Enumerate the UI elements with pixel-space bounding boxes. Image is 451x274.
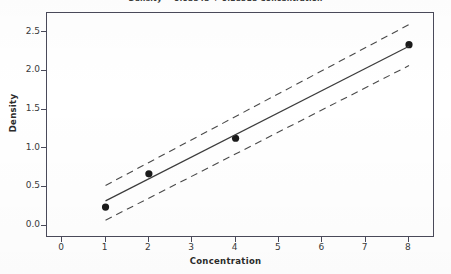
chart-container: Density = 0.03543 + 0.28518 Concentratio… xyxy=(0,0,451,274)
y-tick-label: 2.0 xyxy=(10,65,40,74)
x-tick-label: 6 xyxy=(311,242,331,252)
x-tick-label: 8 xyxy=(398,242,418,252)
y-tick-label: 0.0 xyxy=(10,220,40,229)
series-line xyxy=(106,66,409,221)
data-point xyxy=(145,170,152,177)
x-tick-label: 2 xyxy=(138,242,158,252)
x-tick-label: 1 xyxy=(95,242,115,252)
y-tick-label: 1.5 xyxy=(10,104,40,113)
y-tick-label: 0.5 xyxy=(10,181,40,190)
plot-svg xyxy=(47,13,434,237)
plot-area xyxy=(46,12,434,237)
series-line xyxy=(106,46,409,201)
x-tick-label: 0 xyxy=(51,242,71,252)
x-axis-label: Concentration xyxy=(0,256,451,266)
x-tick-label: 5 xyxy=(268,242,288,252)
y-axis-tick-labels: 0.00.51.01.52.02.5 xyxy=(8,0,40,274)
series-line xyxy=(106,25,409,186)
x-tick-label: 3 xyxy=(181,242,201,252)
x-tick-label: 7 xyxy=(355,242,375,252)
data-point xyxy=(102,203,109,210)
x-tick-label: 4 xyxy=(225,242,245,252)
chart-title: Density = 0.03543 + 0.28518 Concentratio… xyxy=(0,0,451,3)
y-tick-label: 2.5 xyxy=(10,27,40,36)
y-tick-label: 1.0 xyxy=(10,143,40,152)
